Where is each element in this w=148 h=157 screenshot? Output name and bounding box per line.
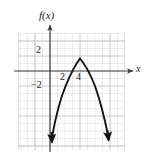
x-axis-label: x	[136, 64, 140, 74]
x-tick-label-4: 4	[76, 72, 81, 82]
x-tick-label-2: 2	[60, 72, 65, 82]
y-tick-label-2: 2	[36, 45, 41, 55]
function-axis-label: f(x)	[39, 10, 54, 21]
graph-figure: f(x) x 2 −2 2 4	[0, 0, 148, 157]
y-tick-label-negative-2: −2	[31, 80, 42, 90]
curve-arrow-right	[107, 130, 108, 141]
graph-canvas	[0, 0, 148, 157]
major-grid	[18, 33, 125, 150]
minor-grid	[18, 33, 125, 150]
